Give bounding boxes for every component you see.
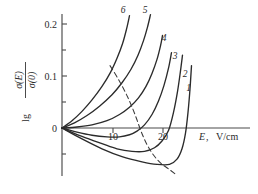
y-axis-label-prefix: lg	[20, 114, 31, 122]
y-axis-label: lg σ(E) σ(0)	[13, 62, 38, 122]
curve-label-3: 3	[172, 51, 178, 61]
curve-label-6: 6	[121, 5, 126, 15]
curve-label-5: 5	[143, 5, 148, 15]
y-tick-label-0.1: 0.1	[45, 71, 58, 82]
x-axis-label-comma: ,	[206, 131, 209, 142]
x-axis-label-units: V/cm	[216, 131, 238, 142]
x-axis-label: E , V/cm	[198, 131, 238, 142]
x-axis-label-symbol: E	[198, 131, 205, 142]
curve-4	[62, 35, 163, 128]
curve-label-group: 123456	[121, 5, 191, 93]
figure-container: 0.2 0.1 0 10 20 E , V/cm lg σ(E) σ(0) 12…	[0, 0, 258, 194]
curve-6	[62, 16, 130, 128]
curve-label-4: 4	[162, 33, 167, 43]
y-tick-label-0: 0	[52, 123, 57, 134]
conductivity-vs-field-chart: 0.2 0.1 0 10 20 E , V/cm lg σ(E) σ(0) 12…	[0, 0, 258, 194]
curve-group	[62, 15, 192, 165]
y-axis-label-denominator: σ(0)	[26, 71, 38, 88]
curve-5	[62, 15, 151, 128]
y-tick-label-0.2: 0.2	[45, 19, 58, 30]
curve-label-1: 1	[186, 83, 191, 93]
curve-label-2: 2	[183, 69, 188, 79]
y-axis-label-numerator: σ(E)	[13, 70, 25, 88]
curve-1	[62, 66, 192, 165]
